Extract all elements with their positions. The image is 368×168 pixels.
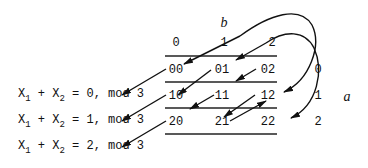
row-header: 1 <box>314 90 321 102</box>
column-header: 2 <box>268 37 275 49</box>
cell: 02 <box>261 64 275 76</box>
row-header: 0 <box>314 64 321 76</box>
column-header: 1 <box>220 37 227 49</box>
column-axis-label: b <box>221 17 228 29</box>
equation-sum-1: X1 + X2 = 1, mod 3 <box>18 114 144 131</box>
equation-sum-2: X1 + X2 = 2, mod 3 <box>18 140 144 157</box>
equation-sum-0: X1 + X2 = 0, mod 3 <box>18 88 144 105</box>
cell: 01 <box>215 64 229 76</box>
cell: 10 <box>169 90 183 102</box>
cell: 22 <box>261 116 275 128</box>
row-axis-label: a <box>344 91 351 103</box>
column-header: 0 <box>172 37 179 49</box>
row-header: 2 <box>314 116 321 128</box>
cell: 20 <box>169 116 183 128</box>
cell: 11 <box>215 90 229 102</box>
cell: 21 <box>215 116 229 128</box>
cell: 00 <box>169 64 183 76</box>
cell: 12 <box>261 90 275 102</box>
